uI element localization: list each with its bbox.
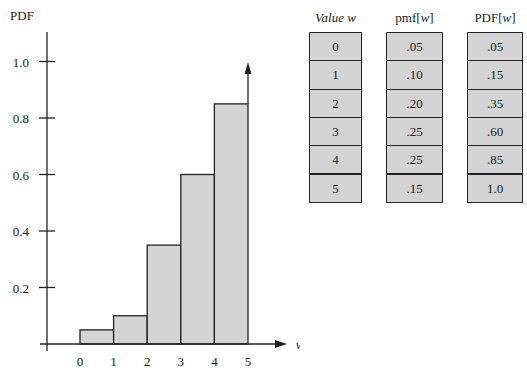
x-tick-label: 3 [178,354,185,369]
pdf-chart: 0.20.40.60.81.0012345PDFw [0,0,300,379]
table-cell: .15 [386,174,443,203]
table-cell: .20 [386,89,443,118]
x-tick-label: 1 [110,354,117,369]
arrow-up-icon [245,62,252,74]
table-cell: 1.0 [467,174,523,203]
table-header: PDF[w] [457,10,527,26]
y-tick-label: 0.4 [13,224,30,239]
table-cell: 0 [309,32,362,61]
table-cell: .60 [467,117,523,146]
y-tick-label: 1.0 [13,55,29,70]
y-axis-label: PDF [10,8,34,23]
x-tick-label: 2 [144,354,151,369]
table-cell: 1 [309,60,362,89]
bar-1 [114,316,148,344]
y-tick-label: 0.8 [13,111,29,126]
table-cell: .25 [386,145,443,174]
table-cell: .85 [467,145,523,174]
x-axis-label: w [296,337,300,352]
y-tick-label: 0.6 [13,168,30,183]
bar-3 [181,175,215,345]
x-tick-label: 0 [77,354,84,369]
bar-2 [147,245,181,344]
table-cell: .05 [386,32,443,61]
table-cell: .15 [467,60,523,89]
table-cell: 4 [309,145,362,174]
arrow-right-icon [275,340,287,348]
table-cell: 2 [309,89,362,118]
bar-4 [214,104,248,344]
table-header: pmf[w] [376,10,453,26]
bar-0 [80,330,114,344]
table-cell: 5 [309,174,362,203]
table-cell: 3 [309,117,362,146]
table-cell: .10 [386,60,443,89]
table-cell: .05 [467,32,523,61]
x-tick-label: 4 [211,354,218,369]
table-cell: .35 [467,89,523,118]
table-header: Value w [299,10,372,26]
table-cell: .25 [386,117,443,146]
y-tick-label: 0.2 [13,281,29,296]
x-tick-label: 5 [245,354,252,369]
